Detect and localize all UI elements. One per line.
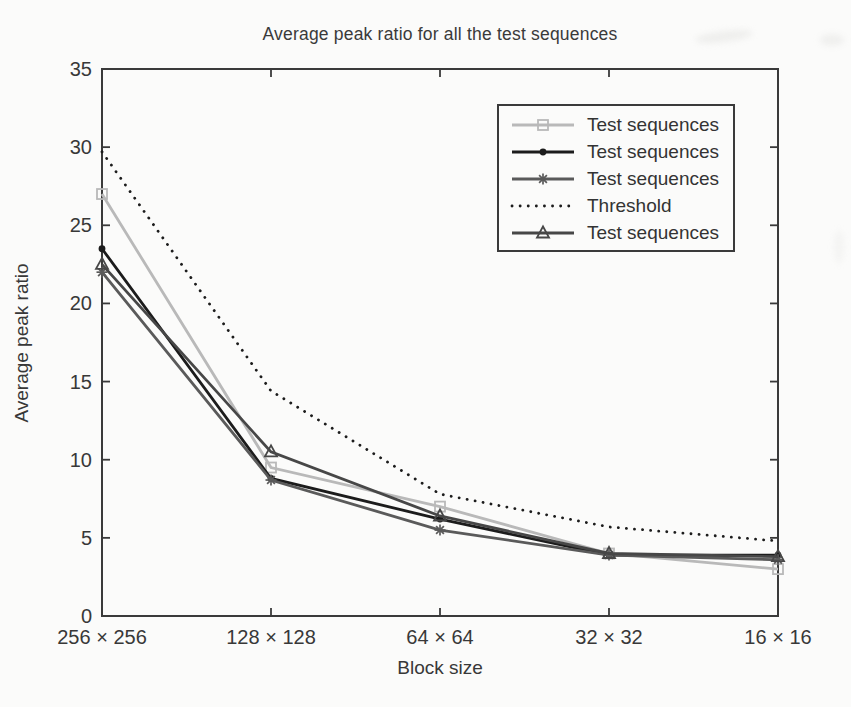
- legend-item: Test sequences: [499, 138, 733, 165]
- x-tick-label: 128 × 128: [226, 626, 316, 648]
- legend-item: Test sequences: [499, 111, 733, 138]
- y-tick-label: 0: [81, 605, 92, 627]
- legend-sample: [510, 142, 576, 162]
- x-tick-label: 64 × 64: [406, 626, 473, 648]
- legend-sample: [510, 223, 576, 243]
- x-tick-label: 256 × 256: [57, 626, 147, 648]
- legend-label: Test sequences: [587, 222, 719, 244]
- scan-artifact: [820, 34, 844, 46]
- legend-sample: [510, 115, 576, 135]
- y-tick-label: 15: [70, 371, 92, 393]
- x-tick-label: 32 × 32: [575, 626, 642, 648]
- x-tick-label: 16 × 16: [744, 626, 811, 648]
- figure: Average peak ratio for all the test sequ…: [0, 0, 851, 707]
- legend-item: Threshold: [499, 192, 733, 219]
- x-axis-label: Block size: [102, 657, 778, 679]
- legend: Test sequencesTest sequencesTest sequenc…: [497, 104, 735, 252]
- legend-item: Test sequences: [499, 219, 733, 246]
- legend-sample: [510, 169, 576, 189]
- y-tick-label: 20: [70, 292, 92, 314]
- legend-sample: [510, 196, 576, 216]
- y-tick-label: 5: [81, 527, 92, 549]
- y-tick-label: 35: [70, 58, 92, 80]
- legend-item: Test sequences: [499, 165, 733, 192]
- y-tick-label: 25: [70, 214, 92, 236]
- series-line-4: [102, 264, 778, 556]
- legend-label: Threshold: [587, 195, 672, 217]
- dot-marker: [540, 148, 547, 155]
- y-tick-label: 30: [70, 136, 92, 158]
- scan-artifact: [834, 230, 844, 264]
- y-tick-label: 10: [70, 449, 92, 471]
- legend-label: Test sequences: [587, 168, 719, 190]
- dot-marker: [99, 245, 106, 252]
- legend-label: Test sequences: [587, 114, 719, 136]
- legend-label: Test sequences: [587, 141, 719, 163]
